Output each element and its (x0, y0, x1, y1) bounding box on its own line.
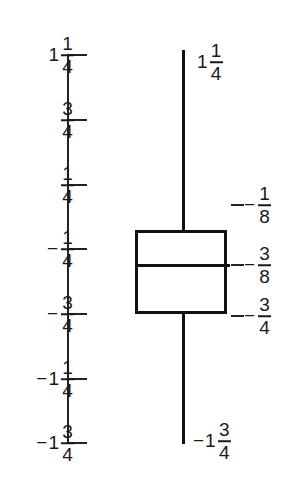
lower-whisker-value-label: − 1 3 4 (193, 420, 231, 462)
y-axis-tick-label: − 1 4 (47, 228, 74, 270)
tick-label-sign: − (47, 240, 58, 259)
label-whole: 1 (205, 432, 216, 451)
y-axis-tick-label: 1 4 (58, 164, 74, 206)
label-fraction: 3 4 (218, 420, 231, 462)
fraction-denominator: 4 (218, 442, 231, 462)
label-sign: − (244, 307, 255, 326)
fraction-denominator: 8 (258, 206, 271, 226)
fraction-numerator: 1 (61, 358, 74, 378)
q1-leader-dash (231, 315, 244, 317)
upper-whisker-value-label: 1 1 4 (196, 41, 223, 83)
tick-label-fraction: 1 4 (61, 34, 74, 76)
q1-value-label: − 3 4 (244, 295, 271, 337)
fraction-denominator: 4 (61, 380, 74, 400)
tick-label-fraction: 3 4 (61, 99, 74, 141)
y-axis-tick-label: − 1 3 4 (36, 422, 74, 464)
tick-label-fraction: 1 4 (61, 228, 74, 270)
box-plot-figure: 1 1 4 3 4 1 4 − 1 4 − (0, 0, 287, 497)
median-leader-dash (231, 264, 244, 266)
tick-label-sign: − (47, 305, 58, 324)
lower-whisker (182, 311, 185, 444)
tick-label-fraction: 3 4 (61, 422, 74, 464)
y-axis-tick-label: − 1 1 4 (36, 358, 74, 400)
fraction-numerator: 3 (61, 99, 74, 119)
fraction-denominator: 4 (61, 121, 74, 141)
fraction-denominator: 4 (61, 315, 74, 335)
tick-label-sign: − (36, 370, 47, 389)
label-sign: − (244, 256, 255, 275)
label-fraction: 1 8 (258, 184, 271, 226)
interquartile-box (135, 230, 227, 314)
fraction-numerator: 3 (61, 293, 74, 313)
median-value-label: − 3 8 (244, 244, 271, 286)
q3-leader-dash (231, 204, 244, 206)
tick-label-sign: − (36, 434, 47, 453)
label-fraction: 3 4 (258, 295, 271, 337)
y-axis-tick-label: 1 1 4 (47, 34, 74, 76)
q3-value-label: − 1 8 (244, 184, 271, 226)
y-axis-tick-label: − 3 4 (47, 293, 74, 335)
fraction-numerator: 1 (61, 164, 74, 184)
tick-label-whole: 1 (48, 434, 59, 453)
fraction-denominator: 4 (61, 444, 74, 464)
label-sign: − (193, 432, 204, 451)
fraction-numerator: 3 (61, 422, 74, 442)
fraction-denominator: 4 (61, 56, 74, 76)
y-axis-tick-label: 3 4 (58, 99, 74, 141)
fraction-denominator: 4 (61, 250, 74, 270)
label-whole: 1 (197, 53, 208, 72)
fraction-denominator: 8 (258, 266, 271, 286)
upper-whisker (182, 50, 185, 232)
fraction-numerator: 1 (210, 41, 223, 61)
fraction-denominator: 4 (258, 317, 271, 337)
label-fraction: 1 4 (210, 41, 223, 83)
median-line (135, 264, 230, 267)
tick-label-fraction: 3 4 (61, 293, 74, 335)
tick-label-fraction: 1 4 (61, 358, 74, 400)
tick-label-whole: 1 (48, 46, 59, 65)
fraction-numerator: 1 (258, 184, 271, 204)
fraction-numerator: 1 (61, 228, 74, 248)
tick-label-whole: 1 (48, 370, 59, 389)
fraction-numerator: 3 (258, 244, 271, 264)
label-fraction: 3 8 (258, 244, 271, 286)
label-sign: − (244, 196, 255, 215)
fraction-numerator: 3 (218, 420, 231, 440)
tick-label-fraction: 1 4 (61, 164, 74, 206)
fraction-denominator: 4 (61, 186, 74, 206)
fraction-numerator: 1 (61, 34, 74, 54)
fraction-numerator: 3 (258, 295, 271, 315)
fraction-denominator: 4 (210, 63, 223, 83)
